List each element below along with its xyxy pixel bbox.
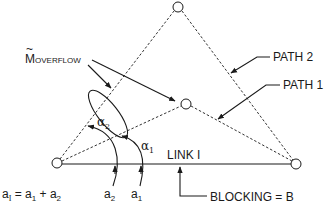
node-right: [291, 159, 301, 169]
path2-leader-arrow: [231, 57, 270, 73]
link-label: LINK I: [167, 148, 200, 162]
a2-curved-arrow: [88, 126, 117, 186]
path2-left-segment: [60, 11, 174, 159]
path2-label: PATH 2: [273, 50, 314, 64]
path1-right-segment: [191, 106, 292, 161]
a1-curved-arrow: [122, 136, 143, 186]
a2-label: a2: [104, 187, 116, 203]
path1-label: PATH 1: [283, 78, 324, 92]
node-left: [52, 158, 62, 168]
overflow-routing-diagram: MOVERFLOW ~ PATH 2 PATH 1 LINK I BLOCKIN…: [0, 0, 328, 210]
blocking-leader-arrow: [180, 167, 207, 196]
m-overflow-label: MOVERFLOW: [25, 52, 81, 66]
node-middle: [181, 99, 191, 109]
m-overflow-arrow-to-ellipse: [88, 65, 111, 88]
node-top: [173, 2, 183, 12]
overflow-ellipse: [82, 85, 133, 143]
a1-label: a1: [131, 187, 143, 203]
m-overflow-arrow-to-middle-node: [92, 60, 175, 101]
blocking-label: BLOCKING = B: [210, 190, 294, 204]
capacity-equation: aI = a1 + a2: [2, 187, 62, 203]
m-overflow-tilde: ~: [26, 42, 33, 56]
alpha2-label: α2: [97, 115, 110, 131]
path1-leader-arrow: [218, 85, 280, 119]
alpha1-label: α1: [141, 139, 154, 155]
